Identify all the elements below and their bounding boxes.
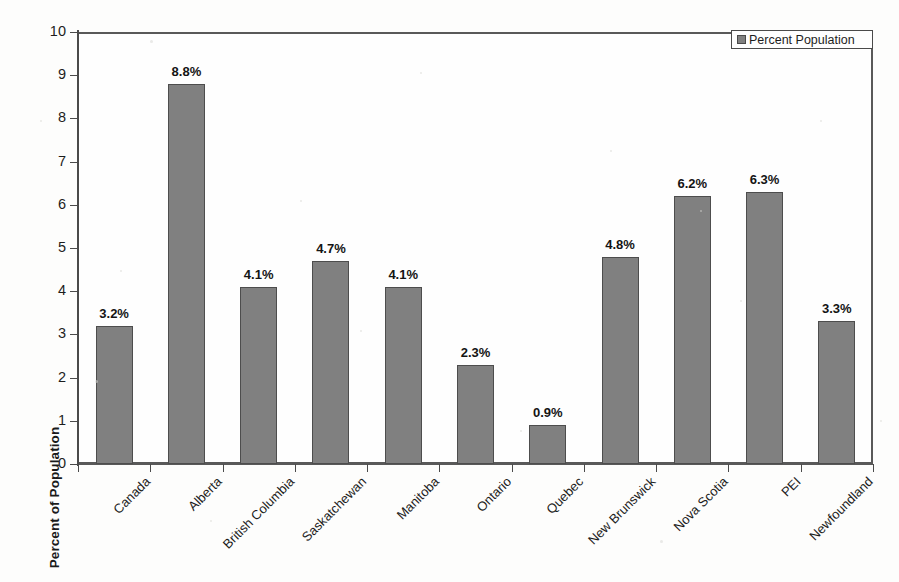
bar[interactable] [385, 287, 422, 464]
x-axis-category-label-text: Saskatchewan [299, 474, 369, 544]
x-axis-category-label-text: New Brunswick [585, 474, 658, 547]
y-axis-tick [70, 162, 77, 163]
y-axis-tick [70, 248, 77, 249]
bar[interactable] [529, 425, 566, 464]
bar-value-label: 2.3% [436, 345, 516, 360]
value-axis [77, 30, 79, 466]
y-axis-tick [70, 334, 77, 335]
y-axis-tick-label: 9 [26, 67, 66, 81]
y-axis-tick-label-text: 10 [30, 24, 66, 39]
legend-label-percent-population: Percent Population [749, 33, 855, 47]
legend-swatch-percent-population [737, 35, 746, 44]
y-axis-tick-label: 6 [26, 197, 66, 211]
x-axis-category-label-text: PEI [778, 474, 803, 499]
y-axis-tick-label: 3 [26, 326, 66, 340]
x-axis-tick [367, 464, 368, 472]
y-axis-tick-label-text: 2 [30, 370, 66, 385]
y-axis-tick [70, 118, 77, 119]
y-axis-tick [70, 378, 77, 379]
y-axis-tick-label-text: 6 [30, 197, 66, 212]
bar-chart: 109876543210 Percent of Population 3.2%8… [0, 0, 899, 582]
y-axis-title: Percent of Population [47, 388, 62, 582]
y-axis-tick-label: 8 [26, 110, 66, 124]
y-axis-tick [70, 421, 77, 422]
bar-value-label: 3.3% [797, 301, 877, 316]
y-axis-tick-label-text: 9 [30, 67, 66, 82]
x-axis-category-label-text: Newfoundland [806, 474, 875, 543]
x-axis-tick [873, 464, 874, 472]
x-axis-tick [295, 464, 296, 472]
y-axis-tick-label-text: 3 [30, 326, 66, 341]
y-axis-tick-label-text: 8 [30, 110, 66, 125]
bar[interactable] [602, 257, 639, 464]
bar[interactable] [168, 84, 205, 464]
x-axis-tick [656, 464, 657, 472]
scan-artifact [660, 540, 663, 543]
x-axis-tick [150, 464, 151, 472]
x-axis-tick [801, 464, 802, 472]
x-axis-category-label-text: Quebec [544, 474, 587, 517]
legend[interactable]: Percent Population [731, 30, 873, 49]
x-axis-tick [78, 464, 79, 472]
x-axis-tick [728, 464, 729, 472]
bar[interactable] [312, 261, 349, 464]
y-axis-tick-label-text: 5 [30, 240, 66, 255]
bar[interactable] [746, 192, 783, 464]
x-axis-tick [584, 464, 585, 472]
scan-artifact [210, 520, 212, 522]
y-axis-tick [70, 32, 77, 33]
x-axis-category-label-text: Ontario [473, 474, 514, 515]
x-axis-tick [512, 464, 513, 472]
y-axis-tick [70, 464, 77, 465]
bar-value-label: 0.9% [508, 405, 588, 420]
y-axis-tick-label: 7 [26, 154, 66, 168]
x-axis-tick [439, 464, 440, 472]
bar-value-label: 6.2% [652, 176, 732, 191]
y-axis-tick [70, 291, 77, 292]
y-axis-tick [70, 75, 77, 76]
y-axis-tick-label: 5 [26, 240, 66, 254]
bar-value-label: 4.8% [580, 237, 660, 252]
x-axis-category-label-text: Manitoba [393, 474, 441, 522]
bar-value-label: 4.7% [291, 241, 371, 256]
x-axis-category-label-text: Nova Scotia [671, 474, 731, 534]
bar-value-label: 4.1% [219, 267, 299, 282]
bar[interactable] [818, 321, 855, 464]
x-axis-category-label-text: British Columbia [220, 474, 298, 552]
y-axis-tick [70, 205, 77, 206]
y-axis-tick-label: 2 [26, 370, 66, 384]
y-axis-tick-label-text: 4 [30, 283, 66, 298]
x-axis-tick [223, 464, 224, 472]
scan-artifact [880, 420, 882, 422]
bar-value-label: 8.8% [146, 64, 226, 79]
y-axis-tick-label: 10 [26, 24, 66, 38]
y-axis-tick-label: 4 [26, 283, 66, 297]
y-axis-tick-label-text: 7 [30, 154, 66, 169]
bar-value-label: 6.3% [725, 172, 805, 187]
x-axis-category-label-text: Canada [110, 474, 153, 517]
bar-value-label: 3.2% [74, 306, 154, 321]
bar[interactable] [674, 196, 711, 464]
bar[interactable] [240, 287, 277, 464]
bar[interactable] [96, 326, 133, 464]
bar-value-label: 4.1% [363, 267, 443, 282]
bar[interactable] [457, 365, 494, 464]
x-axis-category-label-text: Alberta [185, 474, 225, 514]
